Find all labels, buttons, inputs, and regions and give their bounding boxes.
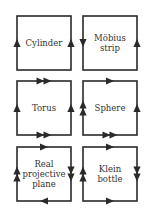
surface-label: Torus [17,81,71,135]
surface-label: Klein bottle [83,147,137,201]
surface-label: Möbius strip [83,16,137,70]
surface-mobius-strip: Möbius strip [83,16,137,70]
surface-cylinder: Cylinder [17,16,71,70]
surface-label: Sphere [83,81,137,135]
surface-torus: Torus [17,81,71,135]
surface-real-projective-plane: Real projective plane [17,147,71,201]
surface-label: Cylinder [17,16,71,70]
surface-label: Real projective plane [17,147,71,201]
surface-sphere: Sphere [83,81,137,135]
surface-klein-bottle: Klein bottle [83,147,137,201]
